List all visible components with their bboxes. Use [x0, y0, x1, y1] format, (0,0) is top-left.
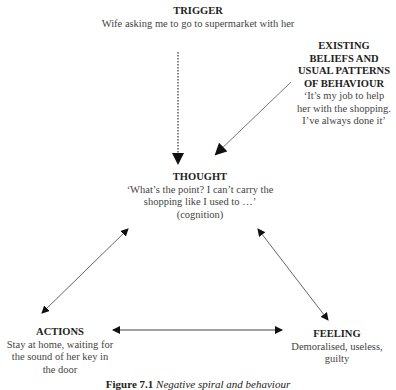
feeling-node: FEELING Demoralised, useless, guilty — [282, 328, 392, 366]
feeling-body: Demoralised, useless, guilty — [282, 341, 392, 366]
beliefs-node: EXISTING BELIEFS AND USUAL PATTERNS OF B… — [296, 40, 392, 128]
beliefs-to-thought-arrow — [216, 82, 291, 154]
thought-node: THOUGHT ‘What’s the point? I can’t carry… — [118, 171, 282, 221]
beliefs-body: ‘It’s my job to help her with the shoppi… — [296, 90, 392, 128]
trigger-body: Wife asking me to go to supermarket with… — [98, 18, 298, 31]
figure-caption: Figure 7.1 Negative spiral and behaviour — [0, 378, 396, 390]
trigger-node: TRIGGER Wife asking me to go to supermar… — [98, 5, 298, 30]
actions-body: Stay at home, waiting for the sound of h… — [6, 339, 114, 377]
actions-title: ACTIONS — [6, 326, 114, 339]
feeling-title: FEELING — [282, 328, 392, 341]
caption-label: Figure 7.1 — [106, 378, 153, 390]
thought-title: THOUGHT — [118, 171, 282, 184]
actions-node: ACTIONS Stay at home, waiting for the so… — [6, 326, 114, 376]
thought-actions-arrow — [42, 229, 128, 313]
thought-body: ‘What’s the point? I can’t carry the sho… — [118, 184, 282, 209]
beliefs-title: EXISTING BELIEFS AND USUAL PATTERNS OF B… — [296, 40, 392, 90]
caption-text: Negative spiral and behaviour — [156, 378, 290, 390]
trigger-title: TRIGGER — [98, 5, 298, 18]
thought-note: (cognition) — [118, 209, 282, 222]
thought-feeling-arrow — [258, 229, 328, 320]
